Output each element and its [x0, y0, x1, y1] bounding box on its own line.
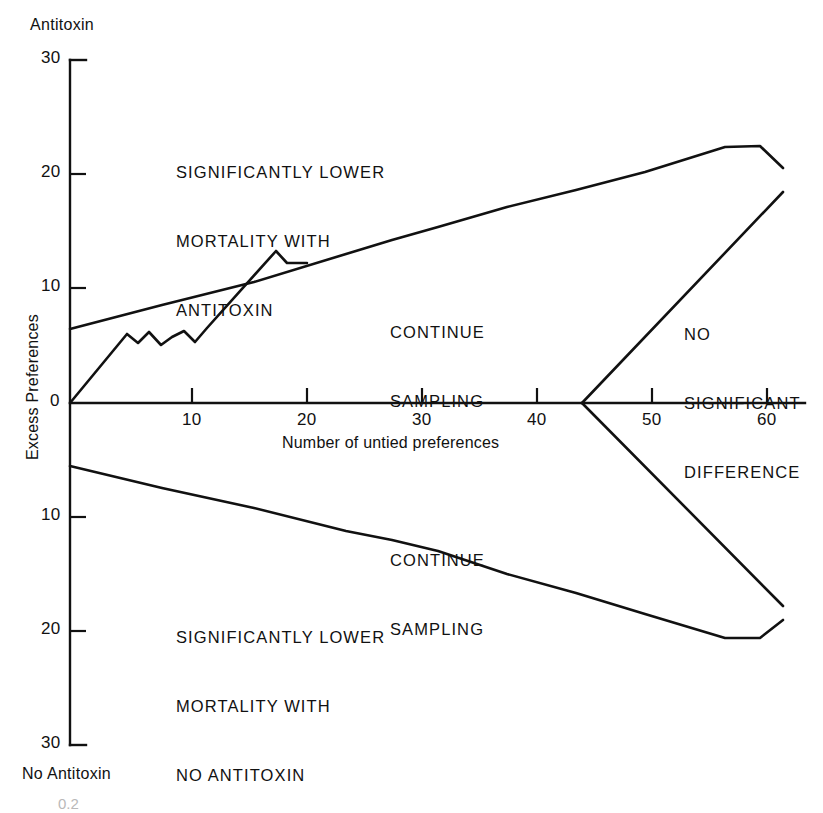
region-middle-upper-line-1: CONTINUE	[390, 321, 485, 344]
region-label-upper-antitoxin: SIGNIFICANTLY LOWER MORTALITY WITH ANTIT…	[176, 115, 385, 368]
y-tick-label-30-bottom: 30	[41, 733, 60, 753]
x-tick-label-10: 10	[182, 410, 201, 430]
y-tick-label-10-bottom: 10	[41, 505, 60, 525]
region-upper-line-1: SIGNIFICANTLY LOWER	[176, 161, 385, 184]
region-lower-line-1: SIGNIFICANTLY LOWER	[176, 626, 385, 649]
region-label-no-significant-difference: NO SIGNIFICANT DIFFERENCE	[684, 277, 801, 530]
region-right-line-3: DIFFERENCE	[684, 461, 801, 484]
y-tick-label-10-top: 10	[41, 276, 60, 296]
y-axis-title: Excess Preferences	[24, 314, 42, 460]
region-right-line-2: SIGNIFICANT	[684, 392, 801, 415]
x-tick-label-20: 20	[297, 410, 316, 430]
region-middle-lower-line-2: SAMPLING	[390, 618, 485, 641]
region-middle-lower-line-1: CONTINUE	[390, 549, 485, 572]
y-tick-label-20-top: 20	[41, 162, 60, 182]
region-right-line-1: NO	[684, 323, 801, 346]
region-label-lower-no-antitoxin: SIGNIFICANTLY LOWER MORTALITY WITH NO AN…	[176, 580, 385, 813]
y-tick-label-30-top: 30	[41, 48, 60, 68]
x-tick-label-40: 40	[527, 410, 546, 430]
y-tick-label-0: 0	[50, 391, 60, 411]
bottom-axis-label: No Antitoxin	[22, 765, 111, 783]
y-tick-label-20-bottom: 20	[41, 619, 60, 639]
region-label-continue-sampling-lower: CONTINUE SAMPLING	[390, 503, 485, 687]
region-lower-line-3: NO ANTITOXIN	[176, 764, 385, 787]
x-tick-label-50: 50	[642, 410, 661, 430]
region-upper-line-3: ANTITOXIN	[176, 299, 385, 322]
region-middle-upper-line-2: SAMPLING	[390, 390, 485, 413]
top-axis-label: Antitoxin	[30, 16, 94, 34]
region-lower-line-2: MORTALITY WITH	[176, 695, 385, 718]
region-upper-line-2: MORTALITY WITH	[176, 230, 385, 253]
bottom-cutoff-text: 0.2	[58, 795, 79, 812]
region-label-continue-sampling-upper: CONTINUE SAMPLING	[390, 275, 485, 459]
